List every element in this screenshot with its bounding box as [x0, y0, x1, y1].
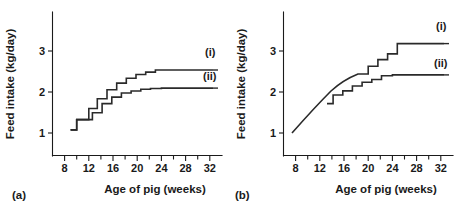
chart-a-xtick-label-20: 20: [131, 162, 143, 174]
chart-a-series-i-line: [71, 70, 213, 130]
chart-b-series-ii-label: (ii): [434, 57, 448, 69]
chart-a-xtick-label-28: 28: [179, 162, 191, 174]
chart-a-y-axis-title: Feed intake (kg/day): [4, 29, 16, 140]
chart-a-ytick-label-1: 1: [39, 127, 45, 139]
chart-b-xtick-label-12: 12: [314, 162, 326, 174]
chart-a-x-axis-title: Age of pig (weeks): [104, 183, 206, 195]
chart-b-svg: 1 2 3 8 12 16 20 24 28 32: [231, 0, 462, 211]
chart-b-xtick-label-32: 32: [435, 162, 447, 174]
chart-b-xtick-label-16: 16: [338, 162, 350, 174]
chart-b-xtick-label-20: 20: [362, 162, 374, 174]
chart-b-panel-label: (b): [235, 189, 250, 201]
chart-b-ytick-label-3: 3: [270, 45, 276, 57]
chart-a-series-i-label: (i): [205, 46, 216, 58]
chart-b-xtick-label-24: 24: [386, 162, 399, 174]
chart-a-ytick-label-3: 3: [39, 45, 45, 57]
chart-a-ytick-label-2: 2: [39, 86, 45, 98]
chart-a-series-ii-label: (ii): [203, 70, 217, 82]
chart-a-xtick-label-16: 16: [107, 162, 119, 174]
chart-panel-b: 1 2 3 8 12 16 20 24 28 32: [231, 0, 462, 211]
figure-container: 1 2 3 8 12 16 20 24 28 32: [0, 0, 462, 211]
chart-panel-a: 1 2 3 8 12 16 20 24 28 32: [0, 0, 231, 211]
chart-a-xtick-label-24: 24: [155, 162, 168, 174]
chart-a-panel-label: (a): [12, 189, 26, 201]
chart-b-ytick-label-2: 2: [270, 86, 276, 98]
chart-a-xtick-label-32: 32: [204, 162, 216, 174]
chart-b-x-axis-title: Age of pig (weeks): [335, 183, 437, 195]
chart-b-ytick-label-1: 1: [270, 127, 276, 139]
chart-b-series-ii-line: [327, 75, 444, 104]
chart-b-xtick-label-8: 8: [293, 162, 299, 174]
chart-b-xtick-label-28: 28: [410, 162, 422, 174]
chart-a-xtick-label-12: 12: [83, 162, 95, 174]
chart-b-series-i-label: (i): [436, 20, 447, 32]
chart-a-svg: 1 2 3 8 12 16 20 24 28 32: [0, 0, 231, 211]
chart-b-series-i-line: [292, 44, 444, 133]
chart-a-xtick-label-8: 8: [62, 162, 68, 174]
chart-b-y-axis-title: Feed intake (kg/day): [235, 29, 247, 140]
